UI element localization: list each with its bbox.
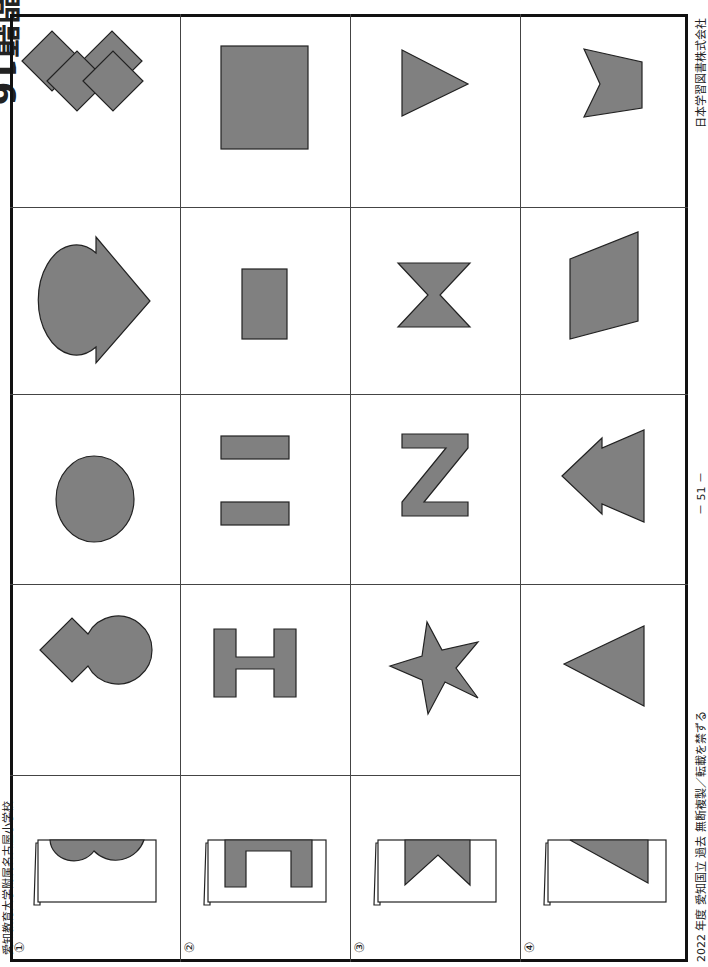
choice-triangle-right[interactable] — [350, 14, 520, 207]
choice-double-arrow-triangle[interactable] — [520, 394, 690, 584]
question-number-1: ① — [12, 942, 27, 954]
choice-tall-rectangle[interactable] — [180, 207, 350, 394]
choice-diamond-and-circle[interactable] — [10, 584, 180, 775]
choice-letter-n[interactable] — [350, 394, 520, 584]
question-number-2: ② — [182, 942, 197, 954]
question-number-4: ④ — [522, 942, 537, 954]
publisher-name: 日本学習図書株式会社 — [692, 18, 708, 128]
folded-paper-1: ① — [10, 775, 180, 962]
choice-square[interactable] — [180, 14, 350, 207]
choice-circle-with-arrow[interactable] — [10, 207, 180, 394]
choice-letter-h[interactable] — [180, 584, 350, 775]
choice-double-diamond[interactable] — [10, 14, 180, 207]
question-number-3: ③ — [352, 942, 367, 954]
choice-two-circles[interactable] — [10, 394, 180, 584]
folded-paper-3: ③ — [350, 775, 520, 962]
folded-paper-2: ② — [180, 775, 350, 962]
page-number: － 51 － — [692, 472, 708, 515]
choice-star[interactable] — [350, 584, 520, 775]
choice-two-bars[interactable] — [180, 394, 350, 584]
choice-bowtie[interactable] — [350, 207, 520, 394]
choice-notched-quadrilateral[interactable] — [520, 14, 690, 207]
choice-parallelogram[interactable] — [520, 207, 690, 394]
folded-paper-4: ④ — [520, 775, 690, 962]
choice-triangle-left[interactable] — [520, 584, 690, 775]
footer-copyright: 2022 年度 愛知国立 過去 無断複製／転載を禁ずる — [692, 711, 708, 962]
